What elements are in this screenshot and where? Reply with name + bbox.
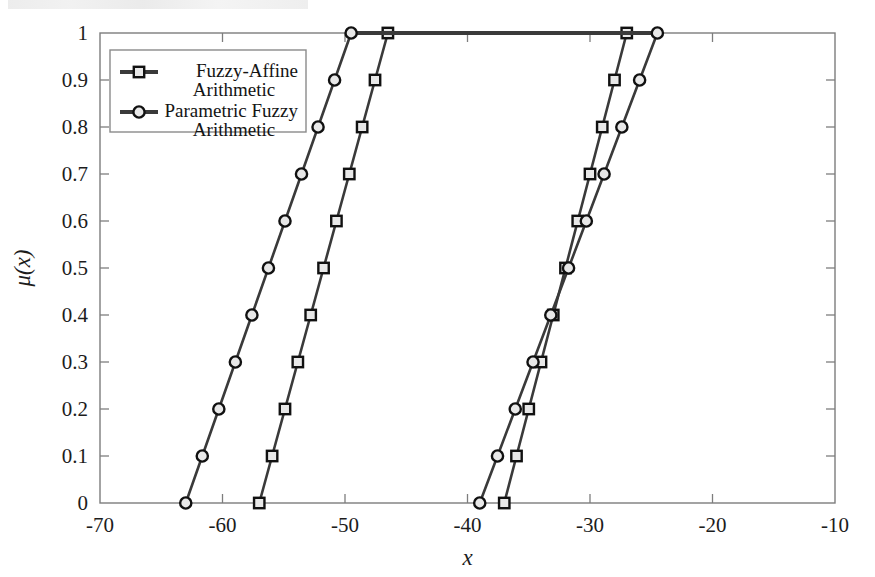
x-tick-label: -30 <box>576 513 604 537</box>
y-tick-label: 0.7 <box>62 162 88 186</box>
data-point-marker-square <box>344 169 354 179</box>
plot-frame: -70-60-50-40-30-20-1000.10.20.30.40.50.6… <box>10 21 849 570</box>
data-point-marker-circle <box>527 356 538 367</box>
y-tick-label: 0.9 <box>62 68 88 92</box>
data-point-marker-square <box>585 169 595 179</box>
data-point-marker-circle <box>279 215 290 226</box>
legend-box: Fuzzy-AffineArithmeticParametric FuzzyAr… <box>110 50 306 140</box>
legend-marker-circle <box>133 106 144 117</box>
fuzzy-membership-plot: -70-60-50-40-30-20-1000.10.20.30.40.50.6… <box>0 0 875 577</box>
data-point-marker-circle <box>213 403 224 414</box>
data-point-marker-circle <box>230 356 241 367</box>
data-point-marker-circle <box>563 262 574 273</box>
data-point-marker-square <box>511 451 521 461</box>
legend-label-line2: Arithmetic <box>193 119 275 140</box>
data-point-marker-square <box>370 75 380 85</box>
x-tick-label: -50 <box>331 513 359 537</box>
legend-label-line2: Arithmetic <box>193 79 275 100</box>
x-tick-label: -60 <box>209 513 237 537</box>
page-text-fragment <box>8 0 308 9</box>
y-tick-label: 0.5 <box>62 256 88 280</box>
y-tick-label: 0.3 <box>62 350 88 374</box>
data-point-marker-square <box>293 357 303 367</box>
data-point-marker-circle <box>510 403 521 414</box>
data-point-marker-square <box>267 451 277 461</box>
series-fuzzy-affine: Fuzzy-AffineArithmeticParametric FuzzyAr… <box>110 27 663 508</box>
legend-label-line1: Fuzzy-Affine <box>196 60 298 81</box>
y-axis-label: μ(x) <box>10 249 35 287</box>
legend-marker-square <box>134 67 144 77</box>
x-tick-label: -40 <box>454 513 482 537</box>
legend-label-line1: Parametric Fuzzy <box>165 100 299 121</box>
x-tick-label: -20 <box>699 513 727 537</box>
data-point-marker-square <box>524 404 534 414</box>
x-tick-label: -70 <box>86 513 114 537</box>
data-point-marker-circle <box>598 168 609 179</box>
figure-container: -70-60-50-40-30-20-1000.10.20.30.40.50.6… <box>0 0 875 577</box>
data-point-marker-circle <box>197 450 208 461</box>
series-parametric-fuzzy: Fuzzy-AffineArithmeticParametric FuzzyAr… <box>110 27 663 508</box>
data-point-marker-circle <box>634 74 645 85</box>
data-point-marker-square <box>331 216 341 226</box>
data-point-marker-circle <box>492 450 503 461</box>
y-tick-label: 0.4 <box>62 303 89 327</box>
y-tick-label: 0.1 <box>62 444 88 468</box>
data-point-marker-circle <box>581 215 592 226</box>
y-tick-label: 0.8 <box>62 115 88 139</box>
data-point-marker-circle <box>616 121 627 132</box>
data-point-marker-square <box>499 498 509 508</box>
data-point-marker-circle <box>545 309 556 320</box>
data-point-marker-circle <box>296 168 307 179</box>
y-tick-label: 0.2 <box>62 397 88 421</box>
data-point-marker-square <box>597 122 607 132</box>
data-point-marker-circle <box>246 309 257 320</box>
x-tick-label: -10 <box>821 513 849 537</box>
data-point-marker-circle <box>180 497 191 508</box>
y-tick-label: 1 <box>78 21 89 45</box>
data-point-marker-circle <box>346 27 357 38</box>
data-point-marker-square <box>609 75 619 85</box>
axis-titles: xμ(x)Fuzzy-AffineArithmeticParametric Fu… <box>10 27 663 570</box>
y-axis-ticks: 00.10.20.30.40.50.60.70.80.91xμ(x)Fuzzy-… <box>10 21 835 570</box>
data-point-marker-square <box>254 498 264 508</box>
data-point-marker-circle <box>652 27 663 38</box>
data-point-marker-circle <box>312 121 323 132</box>
y-tick-label: 0 <box>78 491 89 515</box>
data-point-marker-square <box>280 404 290 414</box>
data-point-marker-circle <box>329 74 340 85</box>
x-axis-ticks: -70-60-50-40-30-20-1000.10.20.30.40.50.6… <box>10 21 849 570</box>
data-point-marker-square <box>306 310 316 320</box>
data-point-marker-square <box>318 263 328 273</box>
data-point-marker-square <box>357 122 367 132</box>
x-axis-label: x <box>461 545 473 570</box>
y-tick-label: 0.6 <box>62 209 88 233</box>
data-point-marker-circle <box>263 262 274 273</box>
data-point-marker-circle <box>474 497 485 508</box>
